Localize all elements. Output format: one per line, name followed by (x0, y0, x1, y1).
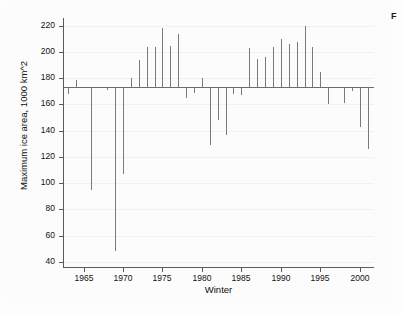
gridline (63, 78, 374, 79)
gridline (63, 52, 374, 53)
x-axis-tick (202, 268, 203, 272)
data-spike (368, 87, 369, 149)
data-spike (226, 87, 227, 135)
data-spike (115, 87, 116, 251)
data-spike (305, 26, 306, 87)
data-spike (289, 44, 290, 87)
x-axis-tick (84, 268, 85, 272)
data-spike (155, 47, 156, 87)
x-axis-tick-label: 1990 (261, 274, 301, 283)
gridline (63, 131, 374, 132)
gridline (63, 209, 374, 210)
x-axis-tick-label: 1995 (300, 274, 340, 283)
x-axis-tick (360, 268, 361, 272)
data-spike (210, 87, 211, 145)
x-axis-tick (320, 268, 321, 272)
x-axis-tick-label: 1970 (103, 274, 143, 283)
x-axis-tick-label: 2000 (340, 274, 380, 283)
y-axis-tick-label: 60 (17, 231, 55, 240)
data-spike (139, 60, 140, 87)
x-axis-tick (162, 268, 163, 272)
gridline (63, 236, 374, 237)
x-axis-tick (241, 268, 242, 272)
data-spike (170, 46, 171, 87)
y-axis-line (63, 18, 64, 267)
data-spike (297, 42, 298, 87)
gridline (63, 262, 374, 263)
x-axis-tick (281, 268, 282, 272)
gridline (63, 26, 374, 27)
data-spike (147, 47, 148, 87)
data-spike (131, 78, 132, 87)
x-axis-tick-label: 1985 (221, 274, 261, 283)
data-spike (281, 39, 282, 87)
data-spike (312, 47, 313, 87)
data-spike (76, 80, 77, 87)
data-spike (265, 57, 266, 87)
x-axis-title: Winter (63, 284, 374, 295)
data-spike (241, 87, 242, 95)
x-axis-line (63, 267, 374, 268)
data-spike (178, 34, 179, 87)
data-spike (360, 87, 361, 127)
data-spike (218, 87, 219, 120)
x-axis-tick-label: 1980 (182, 274, 222, 283)
x-axis-tick-label: 1965 (64, 274, 104, 283)
x-axis-tick (123, 268, 124, 272)
x-axis-tick-label: 1975 (142, 274, 182, 283)
y-axis-tick-label: 40 (17, 257, 55, 266)
data-spike (344, 87, 345, 103)
data-spike (320, 72, 321, 87)
chart-plot-area: 406080100120140160180200220 196519701975… (0, 0, 404, 314)
gridline (63, 157, 374, 158)
gridline (63, 183, 374, 184)
data-spike (162, 28, 163, 87)
data-spike (68, 87, 69, 94)
data-spike (91, 87, 92, 190)
data-spike (273, 47, 274, 87)
data-spike (202, 78, 203, 87)
data-spike (233, 87, 234, 94)
data-spike (186, 87, 187, 98)
y-axis-title: Maximum ice area, 1000 km^2 (18, 26, 29, 226)
baseline-reference-line (63, 87, 374, 88)
data-spike (328, 87, 329, 104)
figure-root: F 406080100120140160180200220 1965197019… (0, 0, 404, 314)
data-spike (249, 48, 250, 87)
data-spike (257, 59, 258, 87)
data-spike (123, 87, 124, 174)
